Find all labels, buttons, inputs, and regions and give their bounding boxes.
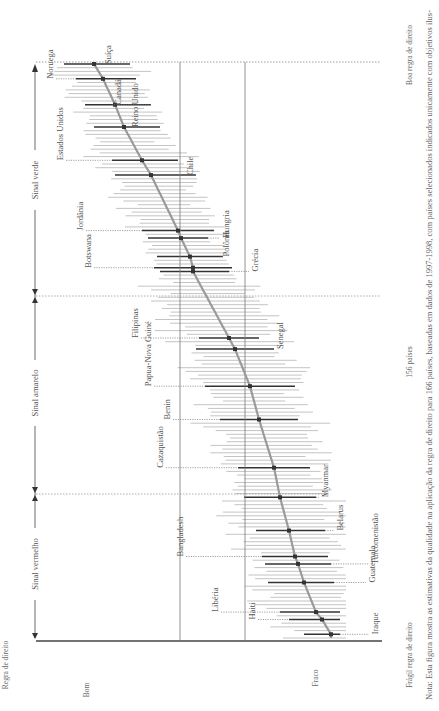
country-label: Papua-Nova Guiné bbox=[143, 321, 153, 386]
highlight-point bbox=[179, 236, 183, 240]
highlight-point bbox=[101, 77, 105, 81]
x-axis-title: 156 países bbox=[405, 346, 414, 378]
highlight-point bbox=[233, 347, 237, 351]
country-labels: SuíçaNoruegaCanadáReino UnidoEstados Uni… bbox=[45, 45, 380, 634]
confidence-intervals bbox=[49, 64, 346, 638]
figure-note: Nota: Esta figura mostra as estimativas … bbox=[425, 9, 434, 700]
highlight-point bbox=[248, 384, 252, 388]
rule-of-law-chart: SuíçaNoruegaCanadáReino UnidoEstados Uni… bbox=[0, 0, 439, 711]
y-axis-bottom-label: Fraco bbox=[311, 669, 320, 686]
zone-label-yellow: Sinal amarelo bbox=[30, 370, 40, 417]
arrow-up-icon bbox=[32, 297, 38, 303]
highlight-point bbox=[227, 336, 231, 340]
highlight-point bbox=[287, 529, 291, 533]
y-axis-top-label: Bom bbox=[82, 683, 91, 698]
country-label: Suíça bbox=[103, 45, 113, 64]
estimate-points bbox=[92, 62, 333, 638]
highlight-point bbox=[191, 266, 195, 270]
zone-label-red: Sinal vermelho bbox=[30, 538, 40, 590]
country-label: Reino Unido bbox=[130, 83, 140, 127]
arrow-down-icon bbox=[32, 633, 38, 639]
arrow-up-icon bbox=[32, 495, 38, 501]
country-label: Grécia bbox=[250, 249, 260, 272]
arrow-down-icon bbox=[32, 487, 38, 493]
x-axis-left-label: Frágil regra de direito bbox=[405, 622, 414, 688]
highlight-point bbox=[293, 555, 297, 559]
country-label: Filipinas bbox=[130, 308, 140, 338]
country-label: Senegal bbox=[275, 322, 285, 350]
highlight-point bbox=[191, 269, 195, 273]
arrow-up-icon bbox=[32, 64, 38, 72]
x-axis-right-label: Boa regra de direito bbox=[405, 25, 414, 85]
chart-structure bbox=[32, 62, 382, 641]
country-label: Benin bbox=[162, 398, 172, 419]
zone-label-green: Sinal verde bbox=[30, 161, 40, 200]
country-label: Iraque bbox=[370, 612, 380, 634]
country-label: Noruega bbox=[45, 49, 55, 78]
highlight-point bbox=[149, 173, 153, 177]
country-label: Chile bbox=[185, 156, 195, 175]
country-label: Polônia bbox=[221, 230, 231, 256]
highlight-point bbox=[302, 581, 306, 585]
country-label: Cazaquistão bbox=[155, 426, 165, 468]
highlight-point bbox=[92, 62, 96, 66]
highlight-point bbox=[296, 562, 300, 566]
country-label: Guatemala bbox=[367, 545, 377, 582]
arrow-down-icon bbox=[32, 289, 38, 295]
highlight-point bbox=[140, 158, 144, 162]
highlight-point bbox=[257, 418, 261, 422]
country-label: Jordânia bbox=[75, 202, 85, 231]
country-label: Myanmar bbox=[320, 464, 330, 497]
highlight-point bbox=[320, 618, 324, 622]
country-label: Belarus bbox=[335, 505, 345, 531]
highlight-point bbox=[278, 495, 282, 499]
country-label: Haiti bbox=[247, 602, 257, 620]
country-label: Bangladesh bbox=[175, 516, 185, 556]
y-axis-title: Regra de direito bbox=[1, 641, 10, 690]
highlight-point bbox=[176, 229, 180, 233]
country-label: Botswana bbox=[83, 234, 93, 268]
highlight-point bbox=[188, 255, 192, 259]
highlight-point bbox=[272, 466, 276, 470]
estimate-spine bbox=[94, 64, 331, 638]
highlight-point bbox=[314, 610, 318, 614]
highlight-point bbox=[122, 125, 126, 129]
country-label: Libéria bbox=[210, 587, 220, 612]
highlight-point bbox=[329, 632, 333, 636]
country-label: Estados Unidos bbox=[55, 107, 65, 160]
country-label: Canadá bbox=[113, 79, 123, 105]
